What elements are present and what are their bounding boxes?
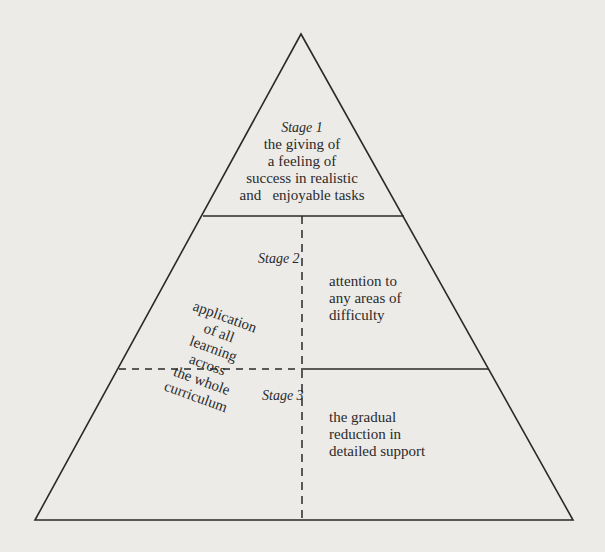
stage1-block: Stage 1 the giving of a feeling of succe…: [201, 119, 403, 204]
stage2-description: attention to any areas of difficulty: [329, 273, 401, 324]
stage1-title: Stage 1: [201, 119, 403, 136]
stage3-desc-line: reduction in: [329, 426, 425, 443]
pyramid-diagram: [0, 0, 605, 552]
stage2-title: Stage 2: [258, 250, 300, 267]
stage2-desc-line: any areas of: [329, 290, 401, 307]
stage1-desc-line: and enjoyable tasks: [201, 187, 403, 204]
stage2-desc-line: attention to: [329, 273, 401, 290]
pyramid-outline: [35, 34, 573, 520]
stage3-desc-line: detailed support: [329, 443, 425, 460]
stage3-desc-line: the gradual: [329, 409, 425, 426]
stage1-desc-line: success in realistic: [201, 170, 403, 187]
stage1-desc-line: a feeling of: [201, 153, 403, 170]
stage1-desc-line: the giving of: [201, 136, 403, 153]
stage3-description: the gradual reduction in detailed suppor…: [329, 409, 425, 460]
stage3-title: Stage 3: [262, 387, 304, 404]
stage2-desc-line: difficulty: [329, 307, 401, 324]
